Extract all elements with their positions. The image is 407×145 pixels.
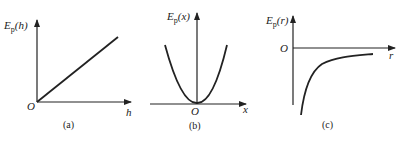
negative-inverse-curve [301,54,373,115]
x-axis-label: x [242,103,248,115]
x-axis-label: r [389,49,394,61]
y-axis-label: Ep(r) [265,14,289,29]
caption: (a) [63,119,74,131]
linear-curve [37,37,118,102]
panel-a: Ep(h) O h (a) [3,19,132,131]
origin-label: O [191,105,199,117]
y-axis-label: Ep(h) [3,19,28,34]
panel-c: Ep(r) O r (c) [265,14,395,131]
panel-b: Ep(x) O x (b) [150,10,248,132]
x-axis-label: h [126,106,132,118]
caption: (b) [189,120,201,132]
caption: (c) [322,119,333,131]
y-axis-label: Ep(x) [166,10,190,25]
origin-label: O [27,100,35,112]
parabola-curve [165,45,227,103]
origin-label: O [280,42,288,54]
potential-energy-diagrams: Ep(h) O h (a) Ep(x) O x (b) Ep(r) O r (c… [0,0,407,145]
